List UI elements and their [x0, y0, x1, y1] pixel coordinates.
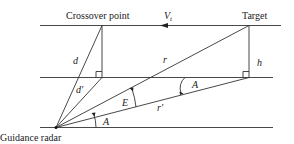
E-label: E	[121, 97, 128, 108]
r-label: r	[163, 54, 167, 65]
angle-arc-A-upper	[180, 78, 185, 94]
target-label: Target	[242, 10, 267, 21]
A-upper-label: A	[191, 79, 199, 90]
velocity-arrow-icon	[160, 23, 168, 28]
radar-point-icon	[55, 126, 58, 129]
angle-arc-A-lower	[94, 114, 96, 128]
h-label: h	[257, 57, 262, 68]
radar-geometry-diagram: Crossover point Target Guidance radar Vt…	[0, 0, 294, 144]
right-angle-marker-crossover	[96, 72, 102, 78]
right-angle-marker-target	[243, 72, 249, 78]
line-r	[56, 26, 249, 128]
arc-arrow-icon	[130, 88, 134, 92]
line-r-prime	[56, 78, 249, 128]
line-d	[56, 26, 102, 128]
A-lower-label: A	[102, 116, 110, 127]
d-label: d	[73, 55, 79, 66]
r-prime-label: r'	[157, 102, 164, 113]
angle-arc-E	[132, 89, 136, 107]
guidance-radar-label: Guidance radar	[0, 132, 62, 143]
d-prime-label: d'	[76, 84, 84, 95]
crossover-point-label: Crossover point	[66, 10, 130, 21]
velocity-label: Vt	[164, 10, 173, 23]
arc-arrow-icon	[92, 113, 96, 117]
